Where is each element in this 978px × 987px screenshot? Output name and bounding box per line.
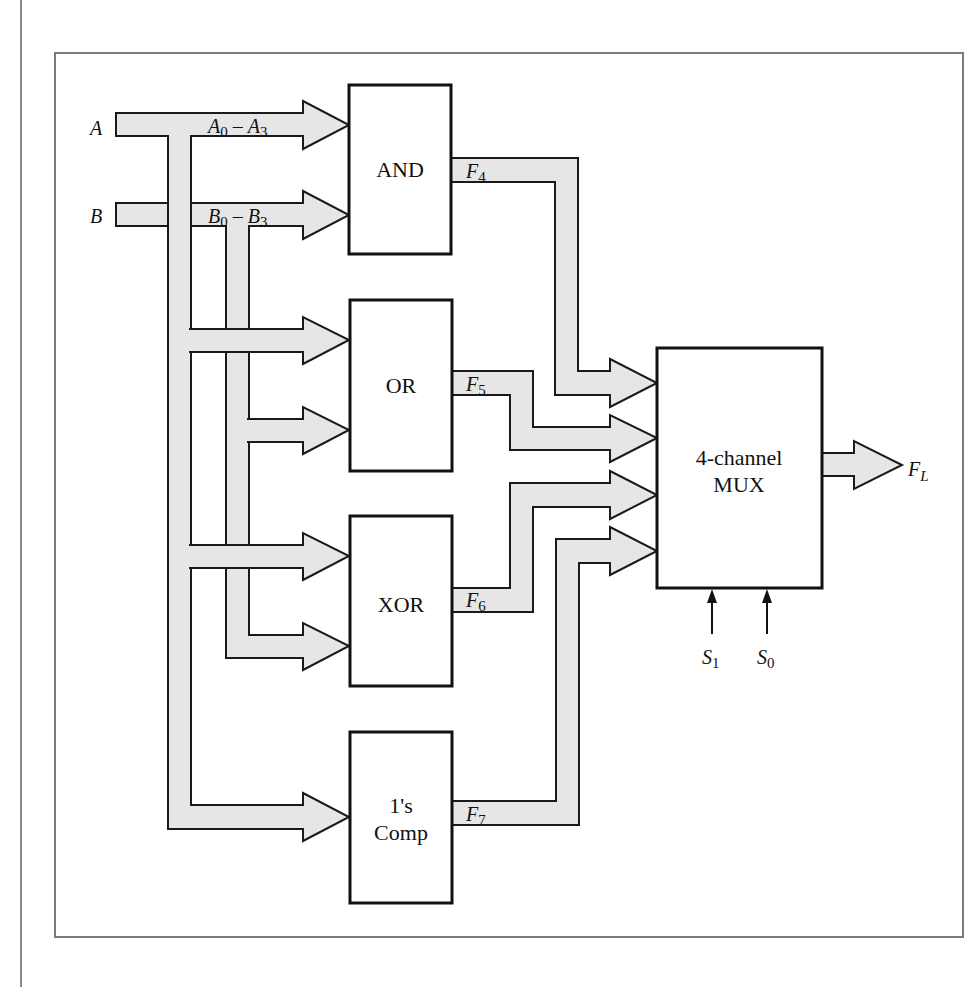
comp-label-line2: Comp [374, 820, 428, 845]
bus-b-to-or [248, 407, 349, 454]
mux-label-line1: 4-channel [696, 445, 783, 470]
bus-a-trunk [168, 124, 349, 841]
s0-label: S0 [757, 646, 775, 671]
bus-a-to-or [190, 317, 349, 364]
input-a-label: A [88, 117, 103, 139]
or-label: OR [386, 373, 417, 398]
s1-label: S1 [702, 646, 720, 671]
select-line-s0 [762, 589, 772, 634]
input-b-label: B [90, 205, 102, 227]
comp-label-line1: 1's [389, 793, 413, 818]
bus-a-to-xor [190, 533, 349, 580]
bus-f4 [451, 158, 657, 407]
bus-f7 [451, 527, 657, 825]
bus-b-range-label: B0 – B3 [208, 205, 267, 230]
mux-label-line2: MUX [713, 472, 764, 497]
bus-a-range-label: A0 – A3 [206, 115, 267, 140]
arrowhead-icon [762, 589, 772, 603]
alu-logic-diagram: AND OR XOR 1's Comp 4-channel MUX A B A0… [0, 0, 978, 987]
bus-fl-output [822, 441, 902, 489]
arrowhead-icon [707, 589, 717, 603]
fl-output-label: FL [907, 458, 929, 484]
xor-label: XOR [378, 592, 425, 617]
and-label: AND [376, 157, 424, 182]
select-line-s1 [707, 589, 717, 634]
